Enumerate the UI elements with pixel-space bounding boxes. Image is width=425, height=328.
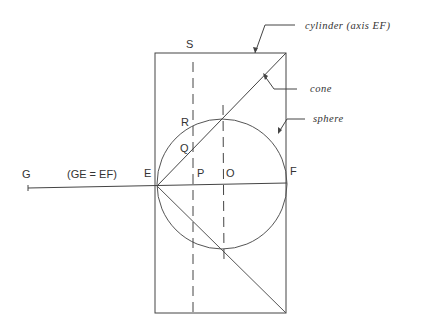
label-Q: Q bbox=[180, 142, 189, 154]
label-G: G bbox=[22, 168, 31, 180]
label-S: S bbox=[186, 38, 193, 50]
sphere-leader bbox=[279, 119, 305, 132]
label-E: E bbox=[144, 167, 151, 179]
cone-upper-line bbox=[157, 53, 286, 186]
cone-leader bbox=[264, 75, 297, 89]
callout-cylinder: cylinder (axis EF) bbox=[305, 20, 390, 32]
label-P: P bbox=[197, 167, 204, 179]
cone-lower-line bbox=[157, 186, 286, 313]
label-ge-equals-ef: (GE = EF) bbox=[67, 168, 117, 180]
geometry-diagram: S R Q P O E F G (GE = EF) cylinder (axis… bbox=[0, 0, 425, 328]
callout-sphere: sphere bbox=[313, 113, 344, 124]
cylinder-arrowhead bbox=[253, 47, 258, 53]
label-R: R bbox=[181, 116, 189, 128]
cylinder-leader bbox=[255, 25, 295, 53]
callout-cone: cone bbox=[310, 83, 332, 94]
dashed-line-O bbox=[223, 105, 224, 262]
label-F: F bbox=[290, 165, 297, 177]
label-O: O bbox=[226, 167, 235, 179]
